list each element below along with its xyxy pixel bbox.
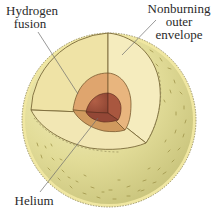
label-nonburning-envelope: Nonburning outer envelope	[146, 2, 212, 41]
label-helium-line1: Helium	[14, 194, 54, 207]
label-hydrogen-line2: fusion	[6, 17, 54, 30]
label-envelope-line3: envelope	[146, 28, 212, 41]
label-helium: Helium	[14, 194, 54, 207]
label-hydrogen-fusion: Hydrogen fusion	[6, 4, 54, 30]
